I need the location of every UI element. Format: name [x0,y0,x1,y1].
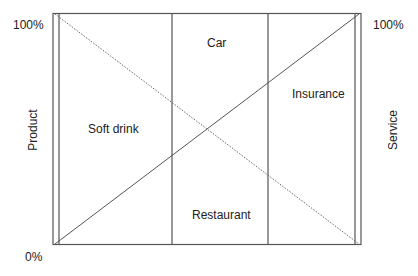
segment-label-car: Car [207,36,226,50]
service-axis-label: Service [386,107,400,153]
left-bottom-tick: 0% [25,250,42,264]
segment-label-soft-drink: Soft drink [88,122,139,136]
segment-label-restaurant: Restaurant [192,208,251,222]
segment-label-insurance: Insurance [292,87,345,101]
left-top-tick: 100% [13,18,44,32]
right-top-tick: 100% [373,18,404,32]
product-axis-label: Product [26,107,40,153]
